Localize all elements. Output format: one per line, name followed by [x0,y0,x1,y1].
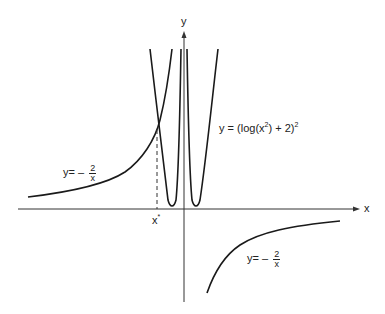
curve-log-right [187,49,218,206]
plot-canvas [0,0,385,314]
right-hyperbola-den: x [273,260,280,269]
right-hyperbola-sign: – [262,252,268,264]
x-axis-arrow-icon [353,207,360,212]
x-star-label: x* [152,213,160,226]
left-hyperbola-sign: – [78,166,84,178]
left-hyperbola-label: y= – 2 x [63,164,96,183]
y-axis-arrow-icon [182,31,187,38]
left-hyperbola-fraction: 2 x [89,164,96,183]
log-curve-sup-outer: 2 [294,121,298,128]
x-axis-label: x [364,203,370,214]
log-curve-label: y = (log(x2) + 2)2 [219,121,298,134]
log-curve-mid: ) + 2) [268,122,294,134]
log-curve-text: y = (log(x [219,122,265,134]
left-hyperbola-lhs: y= [63,166,75,178]
y-axis-label: y [181,16,187,27]
curve-hyperbola-left [28,49,172,197]
right-hyperbola-lhs: y= [247,252,259,264]
x-star-sup: * [158,213,161,220]
right-hyperbola-fraction: 2 x [273,250,280,269]
right-hyperbola-label: y= – 2 x [247,250,280,269]
left-hyperbola-den: x [89,174,96,183]
curve-log-left [150,49,181,206]
